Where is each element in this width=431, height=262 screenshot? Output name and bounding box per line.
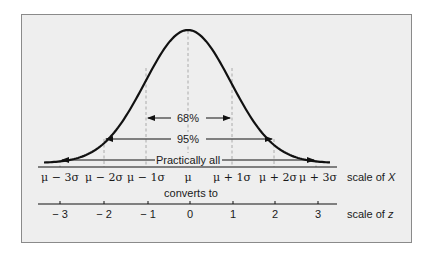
z-tick-1: 1 bbox=[230, 208, 236, 220]
z-tick-3: 3 bbox=[315, 208, 321, 220]
label-practically-all: Practically all bbox=[156, 154, 220, 166]
label-68: 68% bbox=[177, 112, 199, 124]
x-tick-mean: μ bbox=[184, 171, 191, 184]
x-tick-minus-1: μ − 1σ bbox=[127, 171, 165, 184]
z-tick-minus-3: − 3 bbox=[52, 208, 68, 220]
converts-to-label: converts to bbox=[164, 187, 218, 199]
z-tick-2: 2 bbox=[272, 208, 278, 220]
x-scale-label: scale of X bbox=[347, 171, 396, 183]
interval-95: 95% bbox=[106, 132, 272, 145]
x-scale-axis: μ − 3σ μ − 2σ μ − 1σ μ μ + 1σ μ + 2σ μ +… bbox=[38, 167, 396, 184]
z-tick-minus-2: − 2 bbox=[96, 208, 112, 220]
x-tick-plus-3: μ + 3σ bbox=[299, 171, 337, 184]
z-scale-axis: − 3 − 2 − 1 0 1 2 3 scale of z bbox=[38, 201, 394, 220]
normal-distribution-diagram: 68% 95% Practically all μ − 3σ μ − 2σ μ … bbox=[0, 0, 431, 262]
x-tick-plus-2: μ + 2σ bbox=[259, 171, 297, 184]
z-scale-label: scale of z bbox=[347, 208, 394, 220]
z-tick-minus-1: − 1 bbox=[140, 208, 156, 220]
x-tick-minus-2: μ − 2σ bbox=[85, 171, 123, 184]
interval-all: Practically all bbox=[62, 153, 314, 166]
x-tick-plus-1: μ + 1σ bbox=[213, 171, 251, 184]
z-tick-0: 0 bbox=[187, 208, 193, 220]
label-95: 95% bbox=[177, 133, 199, 145]
interval-68: 68% bbox=[148, 111, 230, 124]
x-tick-minus-3: μ − 3σ bbox=[41, 171, 79, 184]
